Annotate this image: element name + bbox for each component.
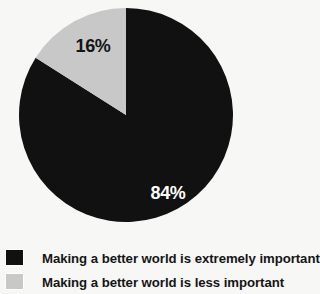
pie-slices (19, 8, 233, 222)
pie-chart-plot-area: 84% 16% (0, 0, 317, 232)
legend-label-less-important: Making a better world is less important (42, 270, 284, 294)
chart-legend: Making a better world is extremely impor… (0, 246, 317, 294)
legend-swatch-less-important (5, 273, 24, 290)
legend-item-less-important: Making a better world is less important (0, 270, 317, 294)
pie-slice-label-less-important: 16% (75, 37, 110, 55)
legend-item-extremely-important: Making a better world is extremely impor… (0, 246, 317, 270)
pie-slice-label-extremely-important: 84% (150, 184, 185, 202)
legend-label-extremely-important: Making a better world is extremely impor… (42, 246, 320, 270)
legend-swatch-extremely-important (5, 249, 24, 266)
